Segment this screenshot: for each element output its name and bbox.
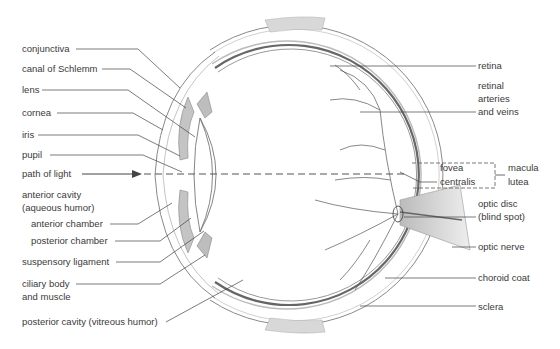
label-anterior-chamber: anterior chamber	[31, 218, 103, 230]
ciliary-body-bottom	[197, 232, 212, 258]
label-retina: retina	[478, 60, 502, 72]
label-suspensory-ligament: suspensory ligament	[22, 256, 109, 268]
label-and-muscle: and muscle	[22, 291, 71, 303]
label-aqueous-humor: (aqueous humor)	[22, 202, 94, 214]
label-path-of-light: path of light	[22, 168, 71, 180]
label-anterior-cavity: anterior cavity	[22, 189, 81, 201]
label-cornea: cornea	[22, 107, 51, 119]
muscle-bottom	[265, 318, 325, 333]
label-arteries: arteries	[478, 93, 510, 105]
label-macula: macula	[508, 162, 539, 174]
label-choroid-coat: choroid coat	[478, 272, 530, 284]
label-conjunctiva: conjunctiva	[22, 43, 70, 55]
label-posterior-cavity: posterior cavity (vitreous humor)	[22, 316, 158, 328]
label-and-veins: and veins	[478, 106, 519, 118]
label-optic-nerve: optic nerve	[478, 241, 524, 253]
label-lutea: lutea	[508, 176, 529, 188]
label-retinal: retinal	[478, 80, 504, 92]
retinal-vessels	[315, 65, 398, 290]
label-sclera: sclera	[478, 301, 503, 313]
muscle-top	[265, 17, 325, 32]
label-ciliary-body: ciliary body	[22, 278, 70, 290]
label-pupil: pupil	[22, 149, 42, 161]
label-canal-of-schlemm: canal of Schlemm	[22, 63, 98, 75]
lens-shape	[194, 118, 213, 232]
eye-diagram: conjunctiva canal of Schlemm lens cornea…	[0, 0, 560, 349]
path-of-light-line	[82, 170, 405, 178]
iris-top	[179, 97, 194, 160]
label-fovea: fovea	[440, 162, 463, 174]
label-optic-disc: optic disc	[478, 198, 518, 210]
label-centralis: centralis	[440, 176, 475, 188]
label-blind-spot: (blind spot)	[478, 211, 525, 223]
label-iris: iris	[22, 129, 34, 141]
label-posterior-chamber: posterior chamber	[31, 235, 108, 247]
eye-illustration	[0, 0, 560, 349]
ciliary-body-top	[197, 92, 212, 118]
label-lens: lens	[22, 84, 39, 96]
optic-nerve-shape	[400, 185, 470, 250]
